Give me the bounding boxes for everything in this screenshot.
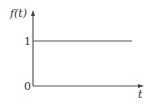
y-axis-arrow-icon	[31, 10, 35, 16]
y-axis-label: f(t)	[10, 8, 27, 19]
step-function-plot: f(t) 1 0 t	[0, 0, 152, 105]
x-axis-label: t	[138, 89, 142, 100]
y-tick-zero: 0	[24, 81, 31, 92]
y-tick-one: 1	[24, 36, 31, 47]
